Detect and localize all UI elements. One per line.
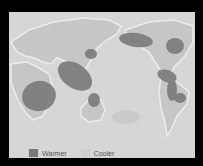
cooler-swatch-icon bbox=[81, 149, 90, 157]
legend-label-warmer: Warmer bbox=[42, 150, 67, 157]
warmer-region-eastern-canada bbox=[166, 38, 184, 54]
warmer-region-northern-australia bbox=[88, 93, 100, 107]
cooler-regions bbox=[112, 110, 140, 124]
legend-item-cooler: Cooler bbox=[81, 149, 115, 157]
map-legend: Warmer Cooler bbox=[29, 146, 128, 158]
warmer-region-japan bbox=[85, 49, 97, 59]
warmer-swatch-icon bbox=[29, 149, 38, 157]
legend-label-cooler: Cooler bbox=[94, 150, 115, 157]
legend-item-warmer: Warmer bbox=[29, 149, 67, 157]
world-map: Warmer Cooler bbox=[9, 12, 195, 158]
warmer-region-southeastern-brazil bbox=[174, 93, 186, 103]
map-canvas bbox=[9, 12, 195, 158]
cooler-region-south-pacific bbox=[112, 110, 140, 124]
